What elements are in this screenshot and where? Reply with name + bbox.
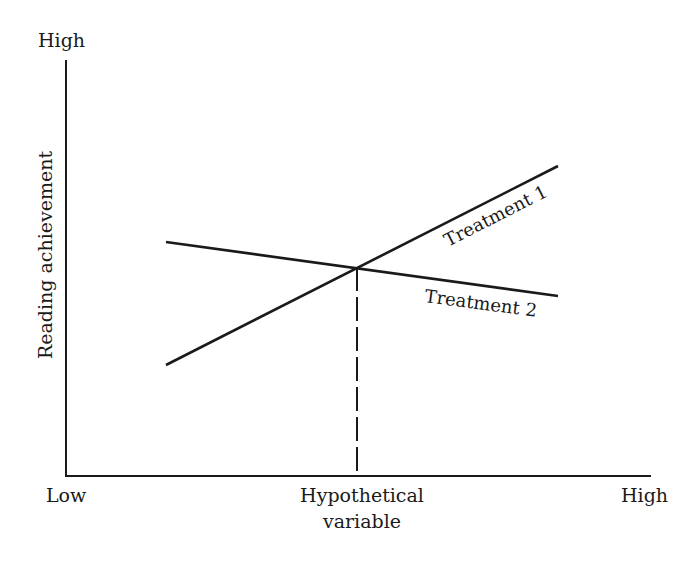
interaction-diagram: High Reading achievement Low High Hypoth… xyxy=(0,0,699,562)
x-axis-label-line1: Hypothetical xyxy=(300,484,424,506)
treatment-2-line xyxy=(166,242,558,296)
x-low-label: Low xyxy=(46,484,87,506)
x-axis-label-line2: variable xyxy=(322,510,401,532)
treatment-1-label: Treatment 1 xyxy=(440,181,550,251)
y-high-label: High xyxy=(38,29,85,51)
treatment-1-line xyxy=(166,166,558,365)
x-high-label: High xyxy=(621,484,668,506)
y-axis-label: Reading achievement xyxy=(34,151,56,360)
